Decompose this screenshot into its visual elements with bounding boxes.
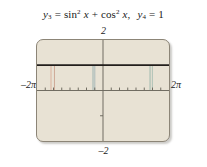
y-axis-max-label: 2 [0,25,207,36]
function-1-sin-term: sin [64,8,77,20]
function-2-equals: = [149,8,155,20]
graph-svg [37,40,169,141]
y-axis-min-label: –2 [0,145,207,156]
function-1-cos-exponent: 2 [116,8,120,16]
function-2-subscript: 4 [142,13,146,21]
function-1-equals: = [55,8,61,20]
function-1-subscript: 3 [48,13,52,21]
x-axis-min-label: –2π [5,79,36,90]
graphing-calculator-screen [36,39,170,142]
function-1-cos-term: cos [101,8,116,20]
equation-caption: y3=sin2x+cos2x,y4=1 [0,8,207,21]
function-1-sin-argument: x [84,8,89,20]
function-1-plus-sign: + [92,8,98,20]
x-axis-max-label: 2π [171,79,205,90]
function-1-sin-exponent: 2 [77,8,81,16]
caption-comma: , [128,8,131,20]
artifact-line-group [51,65,152,90]
plot-area [37,40,169,141]
function-2-value: 1 [158,8,164,20]
